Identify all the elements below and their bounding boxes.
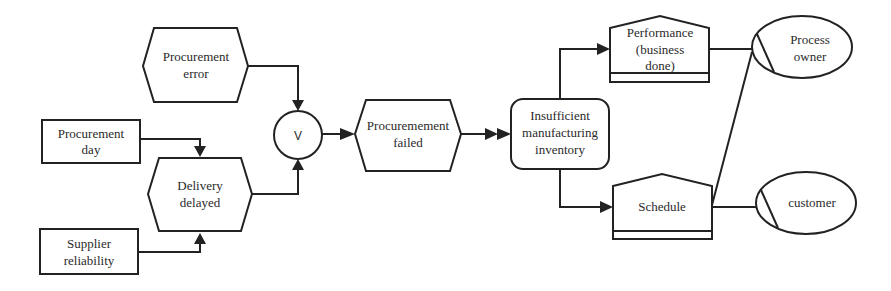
node-label-line: Procurement (163, 49, 230, 64)
node-label-line: error (183, 66, 209, 81)
edge-inventory-to-performance (560, 49, 598, 99)
node-label-line: Schedule (638, 199, 686, 214)
node-customer[interactable]: customer (756, 172, 856, 234)
node-label-line: Supplier (67, 236, 112, 251)
arrowhead-icon (597, 43, 610, 55)
node-label-line: Procurement (58, 126, 125, 141)
edge-delivery-delayed-to-or (252, 170, 298, 194)
edge-procurement-error-to-or (248, 66, 298, 100)
edge-supplier-reliability-to-delivery (138, 243, 200, 252)
node-label-line: day (82, 142, 101, 157)
arrowhead-icon (194, 146, 206, 157)
node-label-line: customer (788, 195, 836, 210)
edge-schedule-to-process-owner (712, 52, 752, 205)
node-insufficient-inventory[interactable]: Insufficient manufacturing inventory (511, 99, 609, 169)
node-label-line: reliability (64, 253, 115, 268)
double-arrowhead-icon (485, 128, 498, 140)
arrowhead-icon (340, 128, 355, 140)
arrowhead-icon (292, 100, 304, 111)
node-label-line: Procuremement (367, 118, 450, 133)
process-diagram: Procurement error Procurement day Delive… (0, 0, 891, 291)
arrowhead-icon (292, 159, 304, 170)
node-label-line: Performance (627, 25, 694, 40)
node-label-line: (business (636, 42, 684, 57)
node-procurement-day[interactable]: Procurement day (42, 120, 140, 163)
edge-procurement-day-to-delivery (140, 139, 200, 147)
node-label-line: owner (794, 49, 827, 64)
node-procurement-failed[interactable]: Procuremement failed (355, 100, 461, 171)
node-process-owner[interactable]: Process owner (752, 16, 852, 78)
node-label-line: Delivery (177, 178, 223, 193)
or-operator-icon: V (294, 129, 302, 143)
double-arrowhead-icon (497, 128, 511, 140)
edge-inventory-to-schedule (560, 169, 600, 207)
arrowhead-icon (600, 201, 613, 213)
node-label-line: Insufficient (530, 108, 590, 123)
node-schedule[interactable]: Schedule (613, 174, 712, 239)
node-procurement-error[interactable]: Procurement error (143, 28, 248, 102)
node-label-line: manufacturing (522, 125, 598, 140)
node-performance[interactable]: Performance (business done) (610, 16, 709, 82)
node-label-line: inventory (535, 142, 585, 157)
node-supplier-reliability[interactable]: Supplier reliability (40, 229, 138, 274)
node-label-line: Process (790, 32, 830, 47)
node-or-connector[interactable]: V (274, 111, 322, 159)
node-label-line: delayed (180, 195, 221, 210)
node-label-line: failed (393, 135, 423, 150)
node-delivery-delayed[interactable]: Delivery delayed (148, 158, 252, 231)
node-label-line: done) (645, 58, 675, 73)
arrowhead-icon (194, 233, 206, 244)
